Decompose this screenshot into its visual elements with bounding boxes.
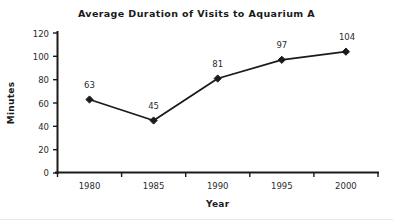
bottom-divider [0, 219, 393, 220]
data-label-2000: 104 [339, 32, 355, 42]
y-axis-title: Minutes [6, 82, 16, 125]
y-tick-label-100: 100 [33, 52, 49, 62]
data-point-1980 [86, 96, 93, 103]
data-point-2000 [342, 48, 349, 55]
y-tick-label-20: 20 [38, 145, 49, 155]
y-tick-label-120: 120 [33, 29, 49, 39]
y-tick-label-40: 40 [38, 122, 49, 132]
x-tick-label-1980: 1980 [79, 181, 101, 191]
x-tick-label-1990: 1990 [207, 181, 229, 191]
data-label-1990: 81 [212, 59, 223, 69]
chart-plot-area: 120 100 80 60 40 20 0 1980 1985 1990 199… [0, 0, 393, 220]
x-axis-title: Year [205, 199, 230, 209]
data-label-1980: 63 [84, 80, 95, 90]
data-label-1995: 97 [276, 40, 287, 50]
x-tick-label-2000: 2000 [335, 181, 357, 191]
x-tick-label-1985: 1985 [143, 181, 165, 191]
data-point-1995 [278, 56, 285, 63]
y-tick-label-60: 60 [38, 99, 49, 109]
y-tick-label-0: 0 [44, 168, 49, 178]
x-tick-label-1995: 1995 [271, 181, 293, 191]
data-label-1985: 45 [148, 101, 159, 111]
y-tick-label-80: 80 [38, 75, 49, 85]
line-chart-figure: Average Duration of Visits to Aquarium A… [0, 0, 393, 220]
